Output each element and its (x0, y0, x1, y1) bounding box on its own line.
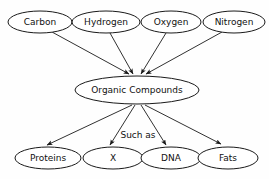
node-nitrogen-label: Nitrogen (215, 17, 254, 27)
node-organic-compounds-label: Organic Compounds (91, 85, 183, 95)
node-x-label: X (110, 153, 116, 163)
edge-nitrogen-to-organic-compounds (146, 32, 222, 74)
edges-sources-to-center (52, 32, 222, 74)
node-x[interactable]: X (83, 147, 143, 169)
edge-organic-compounds-to-fats (145, 105, 221, 144)
concept-map-diagram: Such as Carbon Hydrogen Oxygen Nitrogen (0, 0, 269, 179)
node-fats[interactable]: Fats (198, 147, 258, 169)
edge-oxygen-to-organic-compounds (141, 33, 166, 74)
edge-organic-compounds-to-proteins (47, 105, 132, 145)
node-dna[interactable]: DNA (141, 147, 201, 169)
node-proteins-label: Proteins (30, 153, 67, 163)
node-carbon-label: Carbon (24, 17, 56, 27)
node-fats-label: Fats (219, 153, 237, 163)
node-proteins[interactable]: Proteins (15, 147, 81, 169)
node-organic-compounds[interactable]: Organic Compounds (75, 76, 199, 104)
node-hydrogen-label: Hydrogen (84, 17, 128, 27)
node-hydrogen[interactable]: Hydrogen (72, 11, 140, 33)
edge-label-such-as: Such as (120, 130, 155, 140)
edge-carbon-to-organic-compounds (52, 32, 129, 74)
node-oxygen-label: Oxygen (154, 17, 189, 27)
product-nodes-group: Proteins X DNA Fats (15, 147, 258, 169)
node-nitrogen[interactable]: Nitrogen (203, 11, 265, 33)
diagram-canvas: Such as Carbon Hydrogen Oxygen Nitrogen (0, 0, 269, 179)
edge-hydrogen-to-organic-compounds (110, 33, 133, 74)
node-carbon[interactable]: Carbon (8, 11, 72, 33)
node-dna-label: DNA (161, 153, 182, 163)
node-oxygen[interactable]: Oxygen (141, 11, 201, 33)
source-nodes-group: Carbon Hydrogen Oxygen Nitrogen (8, 11, 265, 33)
